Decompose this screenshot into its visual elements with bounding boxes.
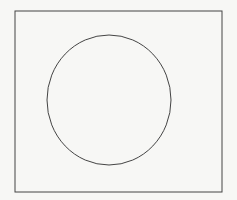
frame-rectangle [15, 11, 222, 192]
diagram-canvas [0, 0, 237, 200]
circle-shape [47, 35, 171, 165]
